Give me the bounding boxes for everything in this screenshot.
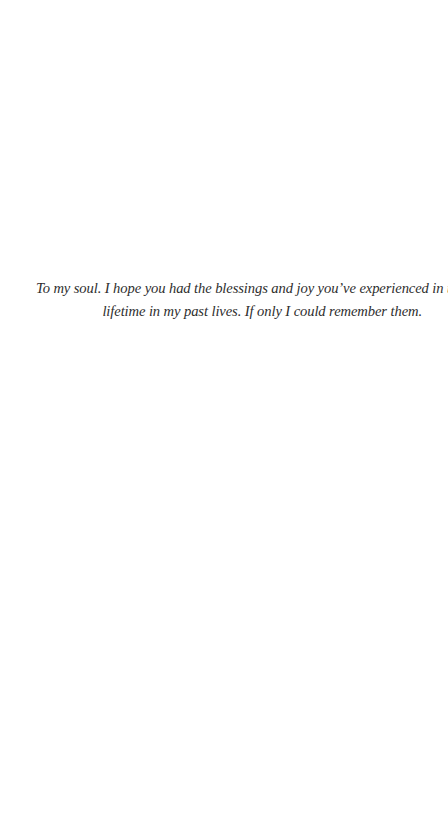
dedication-text: To my soul. I hope you had the blessings… (36, 277, 422, 322)
book-page: To my soul. I hope you had the blessings… (0, 0, 448, 815)
dedication-line-1: To my soul. I hope you had the blessings… (36, 277, 422, 300)
dedication-line-2: lifetime in my past lives. If only I cou… (36, 300, 422, 323)
